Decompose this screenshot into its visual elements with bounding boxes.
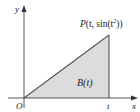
x-axis-label: x (131, 101, 136, 111)
region-label: B(t) (77, 77, 93, 89)
point-p-suffix: )) (116, 19, 122, 30)
point-p-args: (t, sin(t (86, 19, 114, 30)
diagram-canvas: y x O t P(t, sin(t2)) B(t) (0, 0, 140, 112)
tick-t-label: t (107, 101, 110, 111)
origin-label: O (16, 101, 23, 111)
x-axis-arrow-icon (131, 96, 138, 101)
point-p-label: P(t, sin(t2)) (79, 18, 123, 30)
y-axis-label: y (14, 4, 19, 14)
y-axis-arrow-icon (22, 5, 27, 12)
